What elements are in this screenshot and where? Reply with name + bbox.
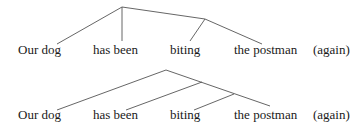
branch-has-been (126, 82, 202, 110)
word-our-dog: Our dog (18, 108, 61, 122)
word-again: (again) (313, 108, 350, 122)
word-our-dog: Our dog (18, 43, 61, 57)
word-the-postman: the postman (234, 108, 297, 122)
word-biting: biting (170, 108, 200, 122)
word-again: (again) (313, 43, 350, 57)
word-the-postman: the postman (234, 43, 297, 57)
branch-our-dog (57, 70, 166, 110)
word-biting: biting (170, 43, 200, 57)
word-has-been: has been (93, 108, 138, 122)
word-has-been: has been (93, 43, 138, 57)
